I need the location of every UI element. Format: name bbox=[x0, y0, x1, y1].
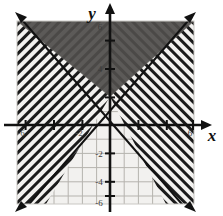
y-axis-label: y bbox=[86, 4, 96, 23]
y-tick-label--6: -6 bbox=[95, 198, 103, 208]
x-tick-label-6: 6 bbox=[188, 128, 193, 138]
x-tick-label--2: -2 bbox=[75, 128, 83, 138]
graph-figure: -6 -2 6 6 4 -2 -4 -6 y x bbox=[0, 0, 223, 216]
y-tick-label-4: 4 bbox=[98, 64, 103, 74]
y-tick-label--4: -4 bbox=[95, 177, 103, 187]
x-axis-label: x bbox=[207, 126, 217, 145]
y-axis-arrow bbox=[105, 3, 115, 14]
x-tick-label--6: -6 bbox=[17, 128, 25, 138]
y-tick-label--2: -2 bbox=[95, 149, 103, 159]
plot-panel bbox=[17, 0, 194, 216]
coordinate-plane: -6 -2 6 6 4 -2 -4 -6 y x bbox=[0, 0, 223, 216]
y-tick-label-6: 6 bbox=[98, 22, 103, 32]
